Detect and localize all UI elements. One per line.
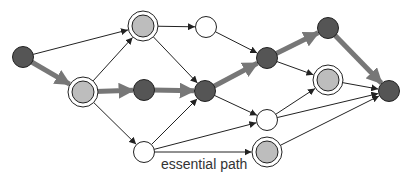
nodes-layer (13, 11, 400, 167)
edge-J-L (343, 83, 378, 89)
essential-edge-F-H (212, 63, 258, 87)
node-B (68, 77, 98, 107)
edge-I-L (277, 94, 378, 118)
edge-G-F (151, 99, 197, 145)
node-A (13, 47, 34, 68)
essential-edge-A-B (29, 61, 69, 84)
node-I (257, 110, 278, 131)
node-M (318, 18, 339, 39)
node-circle (196, 17, 217, 38)
edge-A-C (33, 30, 128, 54)
node-circle (257, 48, 278, 69)
node-circle (318, 18, 339, 39)
essential-edge-H-M (274, 33, 318, 55)
edge-H-J (277, 62, 314, 75)
node-H (257, 48, 278, 69)
edge-K-L (280, 96, 379, 145)
node-circle (379, 81, 400, 102)
node-L (379, 81, 400, 102)
edge-F-I (215, 95, 258, 115)
node-F (195, 81, 216, 102)
essential-edge-E-F (151, 90, 194, 91)
node-circle (256, 141, 278, 163)
node-circle (134, 80, 155, 101)
node-circle (195, 81, 216, 102)
edge-B-G (94, 103, 136, 145)
node-K (252, 137, 282, 167)
node-circle (257, 110, 278, 131)
node-J (313, 65, 343, 95)
edge-C-F (153, 37, 197, 83)
node-G (134, 142, 155, 163)
node-D (196, 17, 217, 38)
node-circle (72, 81, 94, 103)
node-E (134, 80, 155, 101)
essential-path-label: essential path (161, 156, 247, 172)
node-circle (317, 69, 339, 91)
node-circle (132, 15, 154, 37)
essential-edge-B-E (95, 90, 133, 91)
edge-C-D (158, 26, 195, 27)
node-circle (13, 47, 34, 68)
node-circle (134, 142, 155, 163)
edge-D-H (215, 32, 257, 53)
node-C (128, 11, 158, 41)
edge-B-C (93, 37, 132, 80)
